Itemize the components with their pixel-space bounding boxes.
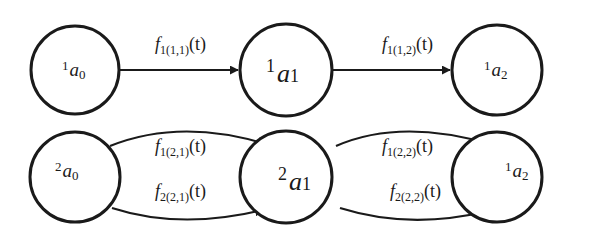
diagram-canvas: f1(1,1)(t) f1(1,2)(t) f1(2,1)(t) f2(2,1)… — [0, 0, 607, 237]
state-diagram: f1(1,1)(t) f1(1,2)(t) f1(2,1)(t) f2(2,1)… — [0, 0, 607, 237]
node-1a1: 1a1 — [240, 24, 332, 116]
edge-1a0-1a1: f1(1,1)(t) — [120, 34, 238, 70]
edge-label: f2(2,2)(t) — [390, 181, 441, 204]
node-1a0: 1a0 — [31, 26, 119, 114]
arrow-curve — [110, 131, 266, 146]
edge-2a0-2a1-upper: f1(2,1)(t) — [110, 131, 266, 159]
edge-label: f1(1,2)(t) — [382, 34, 433, 57]
edge-label: f1(2,1)(t) — [155, 136, 206, 159]
node-2a0: 2a0 — [30, 132, 120, 222]
edge-label: f1(1,1)(t) — [155, 34, 206, 57]
edge-label: f2(2,1)(t) — [155, 181, 206, 204]
node-circle — [452, 132, 542, 222]
node-2a2: 1a2 — [452, 132, 542, 222]
edge-1a1-1a2: f1(1,2)(t) — [333, 34, 450, 70]
node-2a1: 2a1 — [240, 131, 332, 223]
arrow-curve — [112, 208, 263, 220]
edge-label: f1(2,2)(t) — [382, 136, 433, 159]
node-1a2: 1a2 — [452, 25, 542, 115]
